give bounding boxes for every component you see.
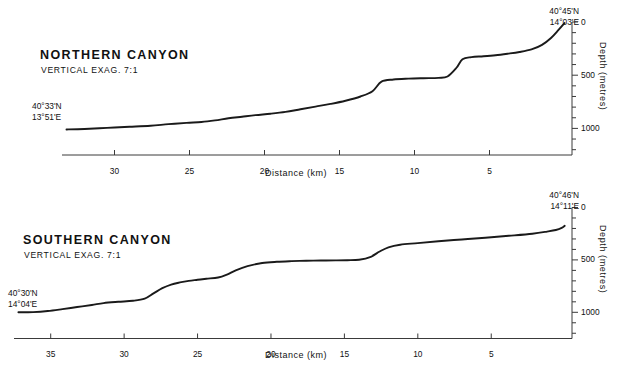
x-tick-label: 30 [119, 349, 128, 359]
start-longitude: 13°51'E [32, 112, 62, 123]
y-tick-label: 1000 [581, 123, 600, 133]
x-tick-label: 25 [185, 166, 194, 176]
northern-canyon-title: NORTHERN CANYON [40, 48, 189, 62]
x-tick-label: 5 [489, 349, 494, 359]
y-tick-label: 0 [581, 202, 586, 212]
x-tick-label: 30 [110, 166, 119, 176]
southern-canyon-plot [0, 185, 626, 369]
x-tick-label: 20 [260, 166, 269, 176]
x-tick-label: 15 [340, 349, 349, 359]
southern-y-axis-title: Depth (metres) [598, 225, 608, 293]
x-tick-label: 20 [266, 349, 275, 359]
northern-y-axis-title: Depth (metres) [598, 42, 608, 110]
start-latitude: 40°30'N [8, 288, 38, 299]
northern-canyon-plot [0, 0, 626, 185]
southern-canyon-start-coordinates: 40°30'N 14°04'E [8, 288, 38, 309]
x-tick-label: 10 [410, 166, 419, 176]
southern-canyon-panel: SOUTHERN CANYON VERTICAL EXAG. 7:1 40°30… [0, 185, 626, 369]
end-longitude: 14°11'E [549, 201, 579, 212]
x-tick-label: 25 [193, 349, 202, 359]
y-tick-label: 500 [581, 254, 595, 264]
y-tick-label: 500 [581, 70, 595, 80]
x-tick-label: 15 [335, 166, 344, 176]
end-longitude: 14°03'E [549, 17, 579, 28]
northern-canyon-start-coordinates: 40°33'N 13°51'E [32, 101, 62, 122]
end-latitude: 40°45'N [549, 6, 579, 17]
northern-canyon-panel: NORTHERN CANYON VERTICAL EXAG. 7:1 40°33… [0, 0, 626, 185]
start-longitude: 14°04'E [8, 299, 38, 310]
northern-x-axis-title: Distance (km) [265, 168, 327, 178]
x-tick-label: 10 [413, 349, 422, 359]
canyon-profile-line [67, 23, 565, 129]
northern-canyon-end-coordinates: 40°45'N 14°03'E [549, 6, 579, 27]
southern-canyon-subtitle: VERTICAL EXAG. 7:1 [24, 250, 121, 260]
x-tick-label: 35 [46, 349, 55, 359]
y-tick-label: 0 [581, 17, 586, 27]
southern-canyon-title: SOUTHERN CANYON [23, 233, 172, 247]
start-latitude: 40°33'N [32, 101, 62, 112]
y-tick-label: 1000 [581, 307, 600, 317]
northern-canyon-subtitle: VERTICAL EXAG. 7:1 [41, 65, 138, 75]
x-tick-label: 5 [487, 166, 492, 176]
end-latitude: 40°46'N [549, 190, 579, 201]
southern-canyon-end-coordinates: 40°46'N 14°11'E [549, 190, 579, 211]
canyon-profiles-figure: NORTHERN CANYON VERTICAL EXAG. 7:1 40°33… [0, 0, 626, 369]
